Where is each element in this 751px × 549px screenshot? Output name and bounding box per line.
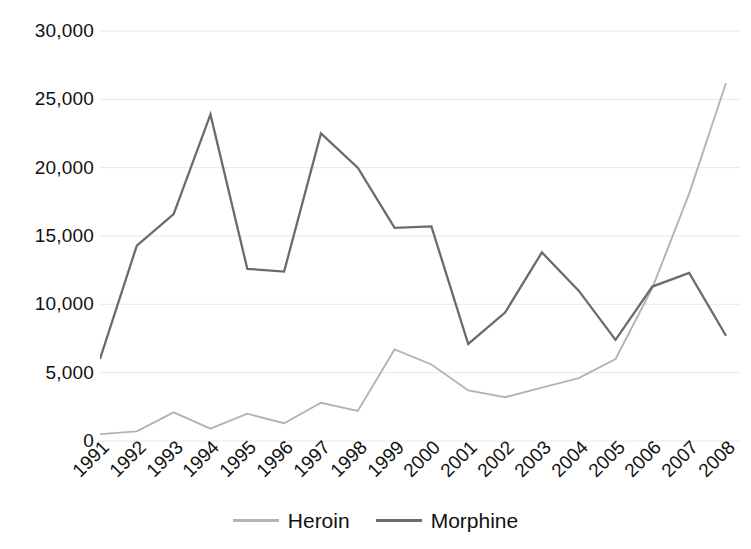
legend-entry-heroin[interactable]: Heroin bbox=[233, 510, 350, 531]
series-line-morphine bbox=[100, 114, 726, 359]
y-axis-tick-label: 15,000 bbox=[35, 226, 94, 245]
plot-svg bbox=[100, 20, 740, 450]
series-line-heroin bbox=[100, 83, 726, 434]
gridlines bbox=[100, 31, 740, 441]
y-axis-tick-label: 10,000 bbox=[35, 294, 94, 313]
y-axis-tick-label: 25,000 bbox=[35, 89, 94, 108]
y-axis: 05,00010,00015,00020,00025,00030,000 bbox=[0, 0, 94, 549]
line-chart: 05,00010,00015,00020,00025,00030,000 199… bbox=[0, 0, 751, 549]
legend-entry-morphine[interactable]: Morphine bbox=[376, 510, 519, 531]
series-lines bbox=[100, 83, 726, 434]
legend-swatch-icon bbox=[376, 519, 422, 522]
plot-area bbox=[100, 20, 740, 450]
chart-legend: HeroinMorphine bbox=[0, 510, 751, 531]
y-axis-tick-label: 20,000 bbox=[35, 158, 94, 177]
y-axis-tick-label: 5,000 bbox=[45, 363, 94, 382]
legend-swatch-icon bbox=[233, 519, 279, 522]
y-axis-tick-label: 30,000 bbox=[35, 21, 94, 40]
y-axis-tick-label: 0 bbox=[83, 431, 94, 450]
legend-label: Morphine bbox=[431, 510, 519, 531]
legend-label: Heroin bbox=[288, 510, 350, 531]
